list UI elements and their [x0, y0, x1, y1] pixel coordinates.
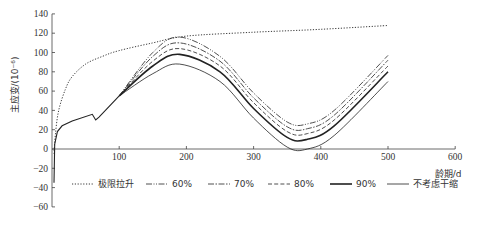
curves — [54, 26, 388, 183]
legend-label: 60% — [172, 179, 192, 189]
y-tick-label: −40 — [33, 183, 48, 193]
x-tick-label: 200 — [179, 152, 194, 162]
legend-label: 70% — [234, 179, 254, 189]
series-line-4 — [119, 54, 388, 141]
x-tick-label: 400 — [314, 152, 329, 162]
legend: 极限拉升60%70%80%90%不考虑干缩 — [72, 178, 458, 189]
early-age-strain-curve — [54, 96, 119, 183]
x-tick-label: 600 — [448, 152, 463, 162]
y-tick-label: 100 — [34, 48, 49, 58]
strain-chart: 140120100806040200−20−40−601002003004005… — [0, 0, 480, 227]
y-tick-label: 140 — [34, 9, 49, 19]
legend-label: 极限拉升 — [98, 178, 134, 189]
legend-label: 80% — [294, 179, 314, 189]
legend-label: 不考虑干缩 — [413, 178, 458, 189]
y-tick-label: 60 — [39, 86, 49, 96]
x-tick-label: 100 — [112, 152, 127, 162]
x-axis-label: 龄期/d — [435, 168, 462, 179]
y-tick-label: −60 — [33, 202, 48, 212]
y-tick-label: 0 — [43, 144, 48, 154]
x-tick-label: 500 — [381, 152, 396, 162]
x-tick-label: 300 — [246, 152, 261, 162]
y-tick-label: 40 — [39, 106, 49, 116]
y-tick-label: 80 — [39, 67, 49, 77]
y-tick-label: 120 — [34, 28, 49, 38]
y-axis-label: 主应变/(10⁻⁶) — [9, 57, 20, 114]
legend-label: 90% — [356, 179, 376, 189]
y-tick-label: 20 — [39, 125, 49, 135]
series-line-0 — [54, 26, 388, 154]
y-tick-label: −20 — [33, 164, 48, 174]
